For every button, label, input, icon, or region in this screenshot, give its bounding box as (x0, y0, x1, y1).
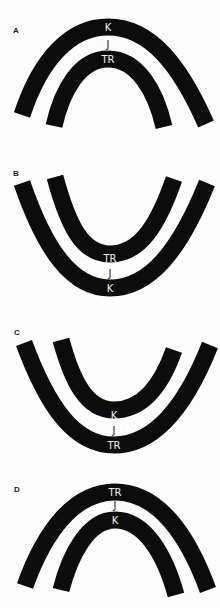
panel-d: D TR J K (14, 485, 208, 595)
panel-label: B (13, 169, 19, 178)
outer-band-label: TR (107, 487, 121, 498)
tr-glyph: TR (100, 54, 114, 65)
inner-band-label: K (111, 410, 118, 421)
panel-label: D (14, 485, 20, 494)
panel-b: B TR J K (13, 169, 207, 294)
outer-band (22, 183, 207, 288)
inner-band (55, 177, 174, 254)
outer-band-label: TR (106, 440, 120, 451)
panel-label: C (14, 328, 20, 337)
inner-band-label: TR (100, 54, 114, 65)
inner-band (54, 59, 164, 127)
outer-band (24, 343, 210, 445)
gap-label: J (108, 268, 112, 279)
panel-c: C K J TR (14, 328, 210, 451)
gap-label: J (112, 425, 116, 436)
inner-band (61, 340, 174, 410)
panel-a: A K J TR (13, 22, 206, 127)
outer-band-label: K (107, 283, 114, 294)
bands-figure: A K J TR B TR J K C K J TR D TR J K (0, 0, 220, 608)
inner-band-label: K (112, 515, 119, 526)
outer-band-label: K (105, 22, 112, 33)
inner-band-label: TR (102, 253, 116, 264)
inner-band (61, 520, 176, 595)
panel-label: A (13, 26, 19, 35)
outer-band (25, 492, 208, 590)
gap-label: J (106, 39, 110, 50)
gap-label: J (113, 500, 117, 511)
